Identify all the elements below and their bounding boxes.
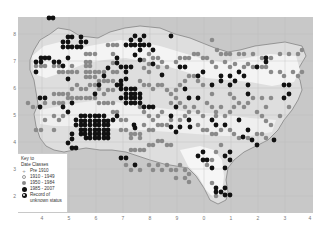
record-dot — [255, 132, 260, 137]
record-dot — [223, 123, 228, 128]
record-dot — [160, 60, 165, 65]
x-tick: 2 — [257, 215, 260, 221]
record-dot — [201, 150, 206, 155]
record-dot — [210, 92, 215, 97]
record-dot — [233, 79, 238, 84]
record-dot — [260, 114, 265, 119]
record-dot — [151, 128, 156, 133]
record-dot — [66, 77, 71, 82]
record-dot — [165, 65, 170, 70]
record-dot — [142, 66, 147, 71]
record-dot — [246, 92, 251, 97]
record-dot — [210, 132, 215, 137]
record-dot — [255, 143, 260, 148]
record-dot — [151, 105, 156, 110]
record-dot — [57, 118, 62, 123]
x-tick: 9 — [176, 215, 179, 221]
record-dot — [138, 58, 143, 63]
record-dot — [300, 48, 305, 53]
record-dot — [242, 105, 247, 110]
record-dot — [147, 83, 152, 88]
record-dot — [237, 136, 242, 141]
record-dot — [38, 105, 43, 110]
record-dot — [84, 60, 89, 65]
record-dot — [38, 96, 43, 101]
record-dot — [160, 83, 165, 88]
record-dot — [264, 136, 269, 141]
record-dot — [133, 101, 138, 106]
gray-dot-icon — [22, 181, 27, 186]
record-dot — [160, 168, 165, 173]
record-dot — [178, 118, 183, 123]
record-dot — [124, 65, 129, 70]
record-dot — [147, 70, 152, 75]
record-dot — [129, 136, 134, 141]
x-tick: 4 — [41, 215, 44, 221]
record-dot — [88, 136, 93, 141]
record-dot — [43, 118, 48, 123]
record-dot — [111, 110, 116, 115]
y-axis-ticks: 8 7 6 5 4 3 2 — [13, 31, 16, 199]
record-dot — [196, 79, 201, 84]
record-dot — [124, 101, 129, 106]
black-dot-icon — [22, 187, 27, 192]
record-dot — [151, 87, 156, 92]
record-dot — [111, 79, 116, 84]
record-dot — [151, 62, 156, 67]
record-dot — [219, 128, 224, 133]
record-dot — [138, 168, 143, 173]
record-dot — [75, 96, 80, 101]
record-dot — [169, 34, 174, 39]
record-dot — [111, 101, 116, 106]
record-dot — [88, 96, 93, 101]
record-dot — [70, 70, 75, 75]
record-dot — [79, 96, 84, 101]
record-dot — [178, 56, 183, 61]
record-dot — [174, 88, 179, 93]
record-dot — [242, 52, 247, 57]
record-dot — [278, 52, 283, 57]
record-dot — [52, 92, 57, 97]
record-dot — [129, 65, 134, 70]
record-dot — [296, 52, 301, 57]
record-dot — [178, 125, 183, 130]
record-dot — [142, 110, 147, 115]
record-dot — [124, 70, 129, 75]
record-dot — [165, 88, 170, 93]
record-dot — [223, 166, 228, 171]
record-dot — [26, 101, 31, 106]
record-dot — [187, 110, 192, 115]
record-dot — [228, 128, 233, 133]
record-dot — [138, 101, 143, 106]
record-dot — [282, 96, 287, 101]
record-dot — [70, 87, 75, 92]
record-dot — [232, 96, 237, 101]
record-dot — [228, 52, 233, 57]
record-dot — [70, 45, 75, 50]
record-dot — [52, 128, 57, 133]
record-dot — [84, 96, 89, 101]
record-dot — [151, 56, 156, 61]
record-dot — [124, 163, 129, 168]
record-dot — [147, 114, 152, 119]
record-dot — [138, 148, 143, 153]
record-dot — [138, 38, 143, 43]
record-dot — [79, 87, 84, 92]
record-dot — [219, 52, 224, 57]
record-dot — [52, 101, 57, 106]
record-dot — [151, 48, 156, 53]
record-dot — [291, 70, 296, 75]
record-dot — [88, 64, 93, 69]
record-dot — [57, 60, 62, 65]
record-dot — [70, 64, 75, 69]
record-dot — [106, 136, 111, 141]
record-dot — [183, 65, 188, 70]
record-dot — [151, 143, 156, 148]
record-dot — [83, 132, 88, 137]
record-dot — [88, 123, 93, 128]
record-dot — [88, 70, 93, 75]
record-dot — [102, 101, 107, 106]
record-dot — [287, 52, 292, 57]
record-dot — [75, 83, 80, 88]
record-dot — [84, 87, 89, 92]
